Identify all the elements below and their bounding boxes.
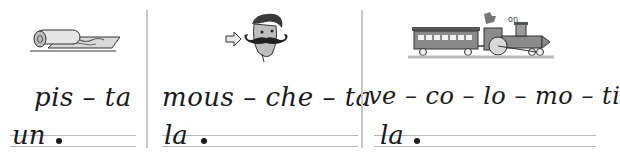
train-locomotive-icon: on (408, 10, 558, 60)
bullet-dot (414, 138, 420, 144)
rolled-carpet-icon (28, 24, 120, 54)
article-label: la (164, 120, 188, 150)
writing-line-bottom (374, 146, 596, 147)
article-label: la (380, 120, 404, 150)
panel-mustache: mous – che – ta la (148, 0, 358, 161)
bullet-dot (201, 138, 207, 144)
mustache-man-icon (224, 10, 294, 62)
answer-blank[interactable] (426, 122, 592, 146)
writing-line-bottom (162, 146, 358, 147)
answer-blank[interactable] (66, 122, 136, 146)
panel-train: on ve – co – lo – mo – ti la (364, 0, 600, 161)
article-label: un (12, 120, 46, 150)
bullet-dot (56, 138, 62, 144)
syllable-word: pis – ta (34, 82, 132, 112)
panel-divider (361, 10, 363, 148)
syllable-word: mous – che – ta (162, 82, 372, 112)
answer-blank[interactable] (212, 122, 352, 146)
syllable-word: ve – co – lo – mo – ti (368, 82, 620, 110)
panel-carpet: pis – ta un (0, 0, 140, 161)
